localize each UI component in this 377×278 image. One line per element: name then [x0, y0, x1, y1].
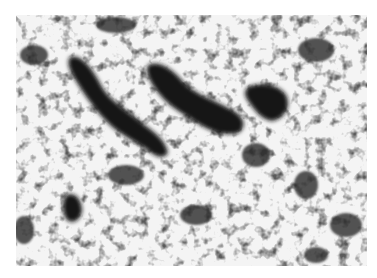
dark-patch	[20, 45, 48, 65]
dark-patch	[304, 247, 328, 263]
dark-patch	[330, 213, 362, 237]
dark-patch	[294, 171, 318, 199]
dark-patch	[180, 205, 212, 225]
micrograph-svg	[16, 15, 367, 266]
dark-patch	[242, 143, 270, 167]
dark-patch	[298, 38, 334, 62]
dark-patch	[96, 17, 136, 33]
micrograph-image	[16, 15, 367, 266]
dark-patch	[108, 165, 144, 185]
